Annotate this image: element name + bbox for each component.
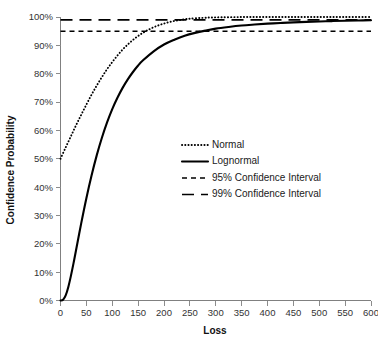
legend-label: Normal [212,139,244,150]
x-tick-label: 200 [156,307,172,318]
y-axis-ticks: 0%10%20%30%40%50%60%70%80%90%100% [29,11,61,306]
y-tick-label: 40% [34,182,54,193]
x-tick-label: 150 [130,307,146,318]
x-tick-label: 0 [58,307,63,318]
x-axis-ticks: 050100150200250300350400450500550600 [58,301,378,319]
legend-label: 99% Confidence Interval [212,188,321,199]
x-tick-label: 250 [182,307,198,318]
x-tick-label: 450 [285,307,301,318]
x-tick-label: 500 [311,307,327,318]
y-axis-title: Confidence Probability [5,115,16,224]
x-tick-label: 600 [363,307,378,318]
x-tick-label: 300 [208,307,224,318]
y-tick-label: 0% [39,295,53,306]
x-tick-label: 50 [81,307,92,318]
x-tick-label: 100 [104,307,120,318]
chart-container: Confidence Probability Loss 0%10%20%30%4… [0,0,378,348]
y-tick-label: 80% [34,68,54,79]
x-tick-label: 350 [234,307,250,318]
y-tick-label: 50% [34,153,54,164]
legend-label: 95% Confidence Interval [212,172,321,183]
confidence-probability-chart: Confidence Probability Loss 0%10%20%30%4… [0,0,378,348]
x-tick-label: 400 [260,307,276,318]
y-tick-label: 30% [34,210,54,221]
x-axis-title: Loss [203,325,227,336]
chart-legend: NormalLognormal95% Confidence Interval99… [182,139,321,200]
y-tick-label: 60% [34,125,54,136]
x-tick-label: 550 [337,307,353,318]
legend-label: Lognormal [212,155,259,166]
series-normal [61,17,372,159]
y-tick-label: 20% [34,238,54,249]
y-tick-label: 100% [29,11,54,22]
y-tick-label: 90% [34,40,54,51]
y-tick-label: 10% [34,267,54,278]
y-tick-label: 70% [34,96,54,107]
